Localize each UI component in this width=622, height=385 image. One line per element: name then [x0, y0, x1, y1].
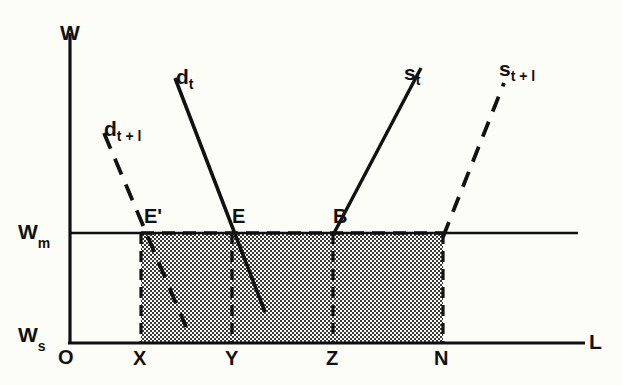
subsistence-wage-subscript: s: [38, 338, 46, 354]
tick-label-y: Y: [225, 348, 238, 368]
tick-label-z: Z: [326, 348, 338, 368]
market-wage-subscript: m: [38, 235, 50, 251]
curve-label-supply-t: st: [404, 62, 420, 83]
economics-diagram: W L Wm Ws O X Y Z N E' E B dt dt + l st …: [0, 0, 622, 385]
subsistence-wage-label: Ws: [18, 324, 46, 349]
point-label-b: B: [333, 206, 347, 226]
tick-label-x: X: [133, 348, 146, 368]
curve-label-demand-t-plus-1: dt + l: [104, 118, 141, 139]
point-label-e: E: [232, 206, 245, 226]
tick-label-n: N: [434, 348, 448, 368]
supply-curve-t-plus-1: [443, 83, 504, 237]
curve-label-supply-t-letter: s: [404, 61, 416, 84]
market-wage-letter: W: [18, 220, 38, 243]
x-axis-label: L: [589, 331, 602, 352]
curve-label-supply-t1-letter: s: [499, 57, 511, 80]
curve-label-supply-t-plus-1: st + l: [499, 58, 535, 79]
subsistence-wage-letter: W: [18, 323, 38, 346]
point-label-e-prime: E': [144, 206, 162, 226]
curve-label-supply-t-subscript: t: [416, 72, 421, 88]
curve-label-demand-t-letter: d: [176, 65, 189, 88]
curve-label-demand-t: dt: [176, 66, 194, 87]
curve-label-demand-t1-subscript: t + l: [117, 128, 142, 144]
origin-label: O: [58, 347, 74, 367]
curve-label-supply-t1-subscript: t + l: [511, 68, 536, 84]
curve-label-demand-t1-letter: d: [104, 117, 117, 140]
curve-label-demand-t-subscript: t: [189, 76, 194, 92]
market-wage-label: Wm: [18, 221, 50, 246]
y-axis-label: W: [60, 22, 80, 43]
